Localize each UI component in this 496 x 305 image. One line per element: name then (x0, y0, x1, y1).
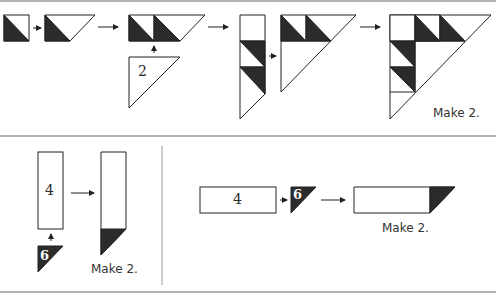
triangle-6-label-left: 6 (40, 248, 49, 263)
triangle-2-label: 2 (138, 63, 147, 79)
hst-square (4, 15, 29, 41)
triangle-6-label-right: 6 (293, 187, 302, 202)
flying-unit (45, 15, 95, 41)
diagram-svg (0, 0, 496, 305)
make-label-bottom-right: Make 2. (382, 221, 429, 235)
make-label-bottom-left: Make 2. (91, 262, 138, 276)
top-section (4, 15, 491, 119)
double-unit (129, 15, 205, 41)
rect-4-label-right: 4 (233, 191, 242, 207)
quilt-diagram: 2 Make 2. 4 6 Make 2. 4 6 Make 2. (0, 0, 496, 305)
triangle-2 (129, 57, 180, 108)
make-label-top: Make 2. (433, 106, 480, 120)
column-strip (240, 15, 265, 119)
rect-4-label-left: 4 (45, 182, 54, 198)
completed-triangle (390, 15, 491, 119)
partial-triangle (281, 15, 356, 92)
bottom-left-section (38, 152, 126, 272)
